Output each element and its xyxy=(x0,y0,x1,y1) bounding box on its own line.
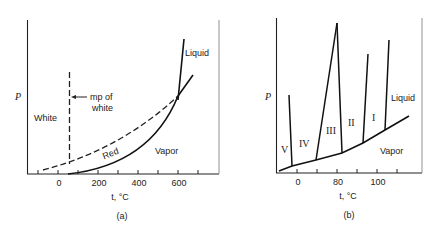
tick-b-100: 100 xyxy=(370,177,385,187)
boundary-iii-ii xyxy=(337,23,342,153)
panel-a-caption: (a) xyxy=(117,211,128,221)
boundary-i-liquid xyxy=(385,40,389,130)
tick-a-0: 0 xyxy=(56,178,61,188)
label-phase-v: V xyxy=(281,145,288,155)
tick-b-0: 0 xyxy=(295,177,300,187)
label-phase-i: I xyxy=(372,113,375,123)
boundary-iv-iii xyxy=(316,23,337,160)
panel-b-ylabel: P xyxy=(265,92,271,102)
label-vapor-a: Vapor xyxy=(155,146,178,156)
panel-b-xlabel: t, °C xyxy=(339,191,357,201)
label-phase-iv: IV xyxy=(299,139,310,149)
tick-a-400: 400 xyxy=(131,178,146,188)
tick-a-200: 200 xyxy=(91,178,106,188)
panel-b-ticks xyxy=(297,169,397,173)
panel-b-caption: (b) xyxy=(344,210,355,220)
annotation-mp-line2: white xyxy=(92,103,113,113)
boundary-ii-i xyxy=(363,54,368,143)
panel-a-ticks xyxy=(38,170,198,174)
red-vapor-curve xyxy=(68,96,178,174)
label-liquid-a: Liquid xyxy=(185,48,209,58)
boundary-v-iv xyxy=(289,95,292,166)
label-liquid-b: Liquid xyxy=(391,93,415,103)
annotation-mp-line1: mp of xyxy=(90,92,113,102)
label-phase-iii: III xyxy=(326,126,336,136)
label-vapor-b: Vapor xyxy=(380,146,403,156)
panel-a-ylabel: P xyxy=(15,92,21,102)
tick-b-80: 80 xyxy=(333,177,343,187)
mp-arrow xyxy=(71,95,87,99)
tick-a-600: 600 xyxy=(171,178,186,188)
label-white: White xyxy=(34,113,57,123)
label-phase-ii: II xyxy=(348,118,355,128)
panel-a-axes xyxy=(27,20,219,174)
panel-a-xlabel: t, °C xyxy=(111,192,129,202)
